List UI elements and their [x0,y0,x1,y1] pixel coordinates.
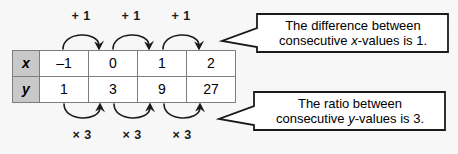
bottom-arrow-1 [64,104,100,118]
top-arrowhead-2 [144,40,154,50]
cell-y-3: 9 [138,77,187,103]
bottom-arrowhead-3 [195,103,205,113]
bottom-op-label-3: × 3 [162,128,202,142]
callout-ratio-text: The ratio between consecutive y-values i… [256,96,444,126]
values-table-wrapper: x –1 0 1 2 y 1 3 9 27 [12,50,236,103]
top-arrow-1 [63,35,99,49]
bottom-op-label-1: × 3 [62,128,102,142]
bottom-arrowheads [95,103,205,113]
callout-ratio-line2: consecutive y-values is 3. [256,111,444,126]
callout-difference-line2: consecutive x-values is 1. [259,33,447,48]
bottom-arrowhead-1 [95,103,105,113]
callout-ratio-line2-post: -values is 3. [355,111,424,126]
top-arrow-group [63,35,199,49]
cell-x-1: –1 [40,51,89,77]
cell-y-2: 3 [89,77,138,103]
cell-x-3: 1 [138,51,187,77]
bottom-op-label-2: × 3 [112,128,152,142]
top-op-label-1: + 1 [61,9,101,23]
figure-canvas: x –1 0 1 2 y 1 3 9 27 + 1 + 1 + 1 × 3 × … [0,0,458,154]
callout-difference-line2-pre: consecutive [279,33,351,48]
bottom-arrowhead-2 [145,103,155,113]
table-row-y: y 1 3 9 27 [13,77,236,103]
callout-ratio-line2-pre: consecutive [276,111,348,126]
bottom-arrow-3 [164,104,200,118]
top-op-label-2: + 1 [111,9,151,23]
callout-difference-line1: The difference between [259,18,447,33]
cell-x-2: 0 [89,51,138,77]
values-table: x –1 0 1 2 y 1 3 9 27 [12,50,236,103]
row-header-y: y [13,77,40,103]
cell-y-4: 27 [187,77,236,103]
top-arrowheads [94,40,204,50]
cell-x-4: 2 [187,51,236,77]
callout-difference-line2-post: -values is 1. [358,33,427,48]
top-arrow-2 [113,35,149,49]
top-arrow-3 [163,35,199,49]
callout-difference-text: The difference between consecutive x-val… [259,18,447,48]
callout-ratio-line1: The ratio between [256,96,444,111]
table-row-x: x –1 0 1 2 [13,51,236,77]
bottom-arrow-group [64,104,200,118]
top-op-label-3: + 1 [161,9,201,23]
row-header-x: x [13,51,40,77]
bottom-arrow-2 [114,104,150,118]
top-arrowhead-3 [194,40,204,50]
top-arrowhead-1 [94,40,104,50]
cell-y-1: 1 [40,77,89,103]
